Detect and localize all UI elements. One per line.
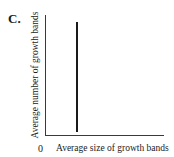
y-axis-line [45, 15, 46, 136]
origin-tick-label: 0 [38, 143, 43, 154]
x-axis-line [45, 135, 164, 136]
y-axis-label: Average number of growth bands [30, 12, 40, 139]
data-series-vertical-line [76, 22, 78, 132]
x-axis-label: Average size of growth bands [56, 143, 169, 154]
panel-label: C. [8, 12, 21, 26]
